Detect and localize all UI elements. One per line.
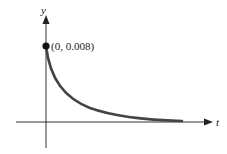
point-label: (0, 0.008) [51, 40, 94, 53]
decay-curve [46, 46, 182, 121]
y-axis-label: y [40, 4, 46, 16]
initial-point [42, 42, 49, 49]
y-axis-arrow-icon [43, 15, 50, 24]
chart: t y (0, 0.008) [0, 0, 227, 154]
x-axis-label: t [216, 116, 220, 128]
x-axis-arrow-icon [204, 119, 213, 126]
